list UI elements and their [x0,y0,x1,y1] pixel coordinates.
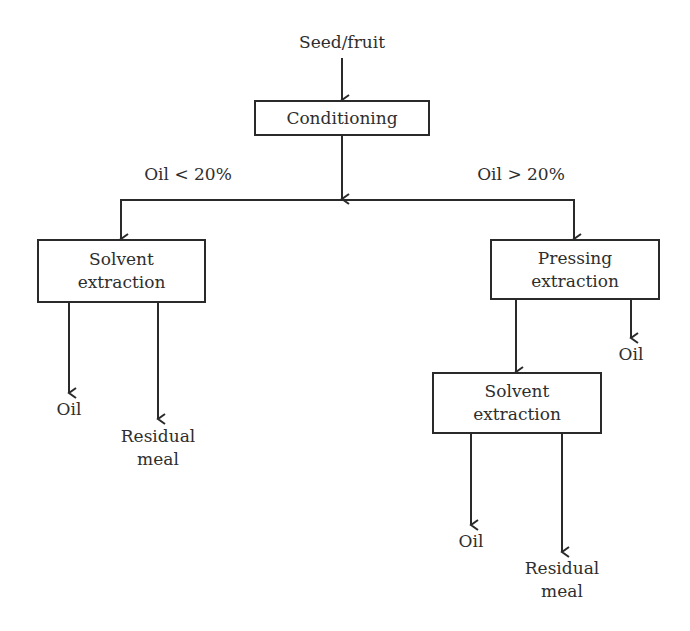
solvent-extraction-box-left: Solvent extraction [37,239,206,303]
oil-output-right: Oil [446,530,496,553]
conditioning-box: Conditioning [254,100,430,136]
oil-output-left: Oil [44,398,94,421]
residual-meal-output-right: Residual meal [517,557,607,603]
oil-output-pressing: Oil [606,343,656,366]
solvent-left-line2: extraction [78,271,166,294]
solvent-extraction-box-right: Solvent extraction [432,372,602,434]
residual-meal-output-left: Residual meal [113,425,203,471]
solvent-right-line2: extraction [473,403,561,426]
connector-lines [0,0,690,631]
solvent-right-line1: Solvent [485,380,550,403]
pressing-line1: Pressing [538,247,612,270]
pressing-line2: extraction [531,270,619,293]
oil-extraction-flowchart: Seed/fruit Conditioning Oil < 20% Oil > … [0,0,690,631]
input-label: Seed/fruit [282,31,402,54]
branch-label-low-oil: Oil < 20% [138,163,238,186]
branch-label-high-oil: Oil > 20% [471,163,571,186]
pressing-extraction-box: Pressing extraction [490,239,660,300]
solvent-left-line1: Solvent [89,248,154,271]
conditioning-label: Conditioning [286,107,397,130]
